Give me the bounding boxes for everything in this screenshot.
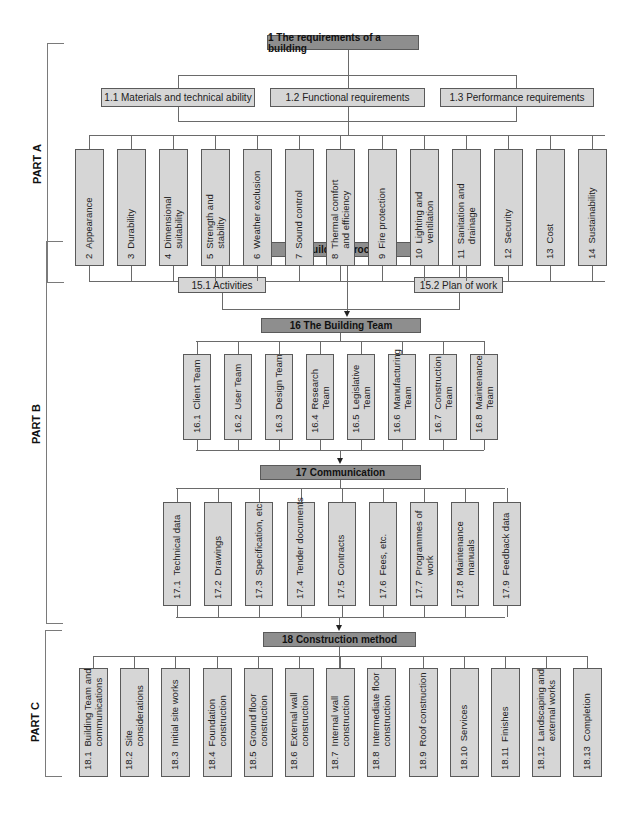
connector bbox=[507, 488, 508, 502]
connector bbox=[299, 656, 300, 668]
item-label: Landscaping and external works bbox=[536, 669, 557, 741]
box-label: 18.12Landscaping and external works bbox=[536, 669, 557, 770]
connector bbox=[238, 440, 239, 450]
building-requirements-diagram: PART A 1 The requirements of a building … bbox=[0, 0, 637, 832]
requirement-box: 8Thermal comfort and efficiency bbox=[326, 149, 355, 266]
requirement-box: 3Durability bbox=[117, 149, 146, 266]
part-c-bracket-top bbox=[45, 630, 62, 631]
item-number: 16.2 bbox=[233, 415, 244, 434]
requirement-box: 7Sound control bbox=[285, 149, 314, 266]
connector bbox=[382, 266, 383, 281]
item-number: 18.2 bbox=[124, 752, 135, 771]
item-label: Strength and stability bbox=[205, 194, 226, 248]
materials-technical-ability-box: 1.1 Materials and technical ability bbox=[101, 88, 255, 107]
requirement-box: 2Appearance bbox=[75, 149, 104, 266]
requirement-box: 4Dimensional suitability bbox=[159, 149, 188, 266]
connector bbox=[587, 656, 588, 668]
construction-item-box: 18.6External wall construction bbox=[285, 668, 314, 777]
connector bbox=[382, 135, 383, 149]
box-label: 18.6External wall construction bbox=[289, 693, 310, 770]
requirement-box: 5Strength and stability bbox=[201, 149, 230, 266]
box-label: 17.7Programmes of work bbox=[414, 511, 435, 599]
connector bbox=[217, 656, 218, 668]
box-label: 7Sound control bbox=[294, 190, 305, 259]
connector bbox=[301, 606, 302, 617]
item-label: Feedback data bbox=[501, 513, 512, 576]
box-label: 2Appearance bbox=[84, 197, 95, 259]
connector bbox=[383, 606, 384, 617]
item-label: User Team bbox=[233, 364, 244, 410]
item-number: 18.4 bbox=[207, 752, 218, 771]
connector bbox=[484, 341, 485, 354]
box-label: 17.4Tender documents bbox=[295, 497, 306, 599]
connector bbox=[134, 656, 135, 668]
item-number: 17.1 bbox=[172, 581, 183, 600]
box-label: 13Cost bbox=[545, 224, 556, 259]
item-label: Foundation construction bbox=[207, 695, 228, 746]
box-label: 9Fire protection bbox=[377, 188, 388, 259]
item-label: Contracts bbox=[336, 535, 347, 576]
item-number: 16.6 bbox=[392, 415, 403, 434]
connector bbox=[257, 135, 258, 149]
connector bbox=[465, 606, 466, 617]
connector bbox=[218, 606, 219, 617]
item-number: 18.13 bbox=[582, 746, 593, 770]
item-number: 6 bbox=[252, 254, 263, 259]
item-label: External wall construction bbox=[289, 693, 310, 747]
box-label: 16.1Client Team bbox=[192, 360, 203, 434]
item-number: 5 bbox=[205, 254, 216, 259]
connector bbox=[178, 121, 517, 122]
item-label: Specification, etc. bbox=[254, 501, 265, 575]
connector bbox=[465, 488, 466, 502]
connector bbox=[423, 656, 424, 668]
item-label: Drawings bbox=[213, 536, 224, 576]
construction-item-box: 18.9Roof construction bbox=[409, 668, 438, 777]
plan-of-work-box: 15.2 Plan of work bbox=[414, 277, 503, 293]
part-b-bracket-top bbox=[46, 241, 63, 242]
communication-item-box: 17.3Specification, etc. bbox=[245, 502, 273, 606]
item-number: 17.3 bbox=[254, 581, 265, 600]
connector bbox=[507, 606, 508, 617]
connector bbox=[508, 135, 509, 149]
box-label: 16.3Design Team bbox=[274, 354, 285, 433]
team-member-box: 16.1Client Team bbox=[183, 354, 211, 440]
box-label: 16.7Construction Team bbox=[433, 356, 454, 433]
item-number: 7 bbox=[294, 254, 305, 259]
arrow-down-icon bbox=[344, 311, 350, 317]
box-label: 11Sanitation and drainage bbox=[456, 183, 477, 259]
item-label: Lighting and ventilation bbox=[414, 192, 435, 244]
connector bbox=[466, 135, 467, 149]
connector bbox=[89, 266, 90, 281]
item-label: Legislative Team bbox=[351, 365, 372, 410]
connector bbox=[424, 488, 425, 502]
part-a-label: PART A bbox=[31, 139, 43, 189]
construction-item-box: 18.2Site considerations bbox=[120, 668, 149, 777]
connector bbox=[505, 656, 506, 668]
connector bbox=[173, 135, 174, 149]
connector bbox=[340, 450, 341, 458]
connector bbox=[196, 341, 484, 342]
connector bbox=[197, 440, 198, 450]
box-label: 17.8Maintenance manuals bbox=[455, 521, 476, 599]
item-label: Sustainability bbox=[587, 187, 598, 243]
connector bbox=[550, 135, 551, 149]
item-number: 13 bbox=[545, 248, 556, 259]
item-label: Sanitation and drainage bbox=[456, 183, 477, 244]
connector bbox=[320, 341, 321, 354]
item-number: 18.5 bbox=[248, 752, 259, 771]
item-label: Maintenance manuals bbox=[455, 521, 476, 575]
team-member-box: 16.8Maintenance Team bbox=[470, 354, 498, 440]
box-label: 16.5Legislative Team bbox=[351, 365, 372, 433]
part-c-bracket-bottom bbox=[45, 776, 62, 777]
box-label: 6Weather exclusion bbox=[252, 171, 263, 259]
connector bbox=[215, 266, 216, 281]
connector bbox=[178, 75, 517, 76]
construction-item-box: 18.12Landscaping and external works bbox=[532, 668, 561, 777]
connector bbox=[339, 617, 340, 625]
team-member-box: 16.5Legislative Team bbox=[347, 354, 375, 440]
box-label: 18.10Services bbox=[459, 705, 470, 770]
communication-item-box: 17.6Fees, etc. bbox=[369, 502, 397, 606]
requirement-box: 13Cost bbox=[536, 149, 565, 266]
box-label: 5Strength and stability bbox=[205, 194, 226, 259]
connector bbox=[340, 480, 341, 488]
